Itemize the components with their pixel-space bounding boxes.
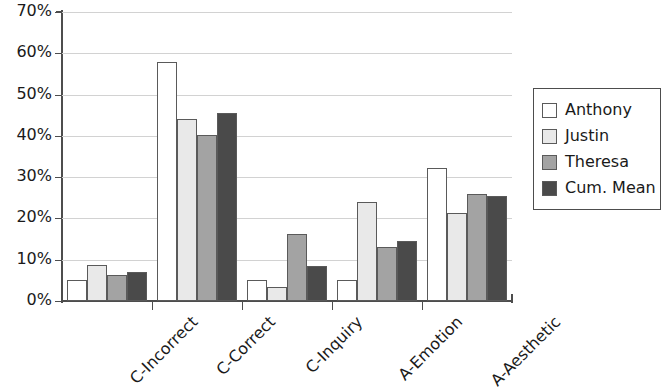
x-axis-category-label: A-Emotion [395, 313, 465, 383]
x-axis-tick-mark [422, 301, 423, 310]
bar-group [332, 12, 422, 301]
y-axis-tick-label-text: 70% [0, 3, 52, 19]
y-axis-tick-label-text: 30% [0, 168, 52, 184]
bar [177, 119, 197, 301]
y-axis-tick-label: 0% [0, 292, 52, 308]
y-axis-tick-label-text: 0% [0, 292, 52, 308]
legend-item: Anthony [542, 97, 653, 123]
bar-group [152, 12, 242, 301]
legend-item: Cum. Mean [542, 175, 653, 201]
x-axis-tick-mark [332, 301, 333, 310]
bar [217, 113, 237, 301]
bar [307, 266, 327, 301]
y-axis-tick-label-text: 50% [0, 86, 52, 102]
y-axis-tick-label-text: 20% [0, 209, 52, 225]
bar [87, 265, 107, 301]
bar [377, 247, 397, 301]
legend-item: Justin [542, 123, 653, 149]
y-axis-tick-label: 30% [0, 168, 52, 184]
legend-label: Anthony [565, 102, 632, 118]
y-axis-tick-label: 40% [0, 127, 52, 143]
bar [247, 280, 267, 301]
y-axis-tick-label-text: 10% [0, 251, 52, 267]
y-axis-tick-label-text: 60% [0, 44, 52, 60]
bar [397, 241, 417, 301]
y-axis-tick-label: 10% [0, 251, 52, 267]
legend-swatch [542, 181, 557, 196]
legend-swatch [542, 129, 557, 144]
y-axis-tick-label: 60% [0, 44, 52, 60]
y-axis-tick-label-text: 40% [0, 127, 52, 143]
bar [107, 275, 127, 301]
plot-area [62, 12, 512, 301]
bar [447, 213, 467, 301]
bar-chart: 0%10%20%30%40%50%60%70% C-IncorrectC-Cor… [0, 0, 662, 389]
x-axis-category-label: C-Correct [213, 313, 278, 378]
x-axis-category-label: A-Aesthetic [488, 313, 564, 389]
bar [427, 168, 447, 301]
bar [357, 202, 377, 301]
y-axis-tick-label: 70% [0, 3, 52, 19]
y-axis-tick-label: 20% [0, 209, 52, 225]
bar [197, 135, 217, 301]
x-axis-category-label: C-Inquiry [302, 313, 365, 376]
x-axis-tick-mark [242, 301, 243, 310]
legend-swatch [542, 103, 557, 118]
bar-group [422, 12, 512, 301]
legend-label: Cum. Mean [565, 180, 656, 196]
bar [337, 280, 357, 301]
x-axis-category-label: C-Incorrect [127, 313, 201, 387]
legend-item: Theresa [542, 149, 653, 175]
bar [487, 196, 507, 301]
bar [127, 272, 147, 301]
bar-group [62, 12, 152, 301]
bar-group [242, 12, 332, 301]
legend: AnthonyJustinTheresaCum. Mean [533, 88, 661, 210]
bar [157, 62, 177, 301]
x-axis-tick-mark [152, 301, 153, 310]
bar [267, 287, 287, 301]
bar [467, 194, 487, 301]
bar [67, 280, 87, 301]
legend-label: Justin [565, 128, 609, 144]
legend-swatch [542, 155, 557, 170]
bar [287, 234, 307, 301]
legend-label: Theresa [565, 154, 629, 170]
y-axis-tick-label: 50% [0, 86, 52, 102]
